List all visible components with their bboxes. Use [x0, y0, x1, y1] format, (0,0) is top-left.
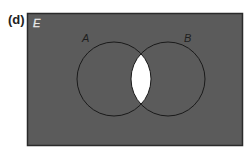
- set-a-label: A: [81, 32, 89, 44]
- venn-diagram: E A B: [0, 0, 251, 149]
- universal-set-label: E: [33, 17, 41, 29]
- set-b-label: B: [184, 32, 191, 44]
